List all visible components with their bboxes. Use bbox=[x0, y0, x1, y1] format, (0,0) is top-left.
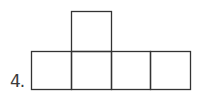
square-top bbox=[72, 12, 112, 52]
square-row-1 bbox=[32, 52, 72, 90]
square-row-4 bbox=[151, 52, 191, 90]
square-row-2 bbox=[72, 52, 112, 90]
square-row-3 bbox=[112, 52, 151, 90]
square-net-figure bbox=[0, 0, 205, 101]
